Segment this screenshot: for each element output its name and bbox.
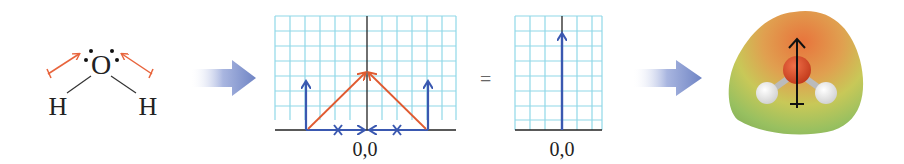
grid-lines — [515, 16, 602, 130]
bond-dipole-left-icon — [47, 54, 79, 78]
equals-sign: = — [480, 68, 491, 91]
vector-addition-grid: 0,0 — [262, 10, 468, 164]
left-bond-dipole-vector — [308, 73, 365, 129]
resultant-grid: 0,0 — [505, 10, 615, 164]
bond-dipole-right-icon — [122, 54, 153, 78]
hydrogen-right-label: H — [139, 92, 158, 121]
origin-label: 0,0 — [353, 138, 378, 160]
lewis-structure: O H H — [0, 0, 180, 164]
electrostatic-potential-map — [722, 0, 904, 164]
bond-right — [111, 76, 136, 93]
bond-left — [67, 76, 91, 93]
oxygen-atom-label: O — [91, 49, 111, 80]
right-arrow-icon — [632, 60, 704, 96]
right-arrow-icon — [190, 60, 260, 96]
hydrogen-left-label: H — [49, 92, 68, 121]
hydrogen-atom-right — [815, 82, 837, 104]
origin-label: 0,0 — [550, 138, 575, 160]
hydrogen-atom-left — [756, 82, 778, 104]
